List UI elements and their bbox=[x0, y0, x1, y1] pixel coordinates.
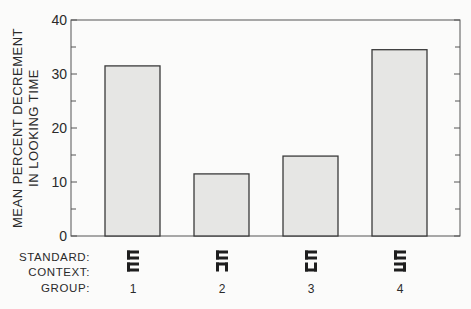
bar-group-1 bbox=[105, 66, 160, 236]
context-stimulus-icon bbox=[305, 263, 317, 272]
bar-group-2 bbox=[194, 174, 249, 236]
y-tick-label: 40 bbox=[51, 12, 67, 28]
group-number: 4 bbox=[397, 282, 404, 296]
bar-group-3 bbox=[283, 156, 338, 236]
row-label-standard: STANDARD: bbox=[19, 251, 90, 263]
group-number: 3 bbox=[308, 282, 315, 296]
y-tick-label: 20 bbox=[51, 120, 67, 136]
row-label-group: GROUP: bbox=[41, 282, 90, 294]
y-tick-label: 0 bbox=[59, 228, 67, 244]
standard-stimulus-icon bbox=[127, 251, 139, 260]
row-label-context: CONTEXT: bbox=[28, 266, 90, 278]
y-tick-label: 30 bbox=[51, 66, 67, 82]
bar-group-4 bbox=[372, 50, 427, 236]
group-number: 2 bbox=[219, 282, 226, 296]
y-tick-label: 10 bbox=[51, 174, 67, 190]
standard-stimulus-icon bbox=[305, 251, 317, 260]
standard-stimulus-icon bbox=[394, 251, 406, 260]
group-number: 1 bbox=[130, 282, 137, 296]
standard-stimulus-icon bbox=[216, 251, 228, 260]
context-stimulus-icon bbox=[394, 263, 406, 272]
context-stimulus-icon bbox=[216, 263, 228, 272]
context-stimulus-icon bbox=[127, 263, 139, 272]
